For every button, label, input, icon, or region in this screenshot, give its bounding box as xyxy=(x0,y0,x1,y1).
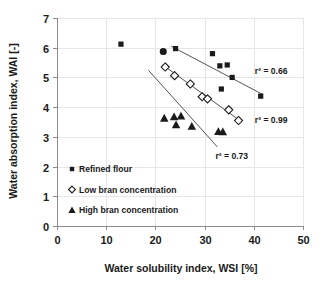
y-tick-label: 3 xyxy=(43,132,49,144)
x-tick-label: 10 xyxy=(100,234,112,246)
marker-filled-square xyxy=(225,62,230,67)
y-tick-label: 6 xyxy=(43,43,49,55)
y-tick-label: 5 xyxy=(43,72,49,84)
x-tick-label: 40 xyxy=(248,234,260,246)
y-axis-title: Water absorption index, WAI [-] xyxy=(7,43,19,198)
y-tick-label: 0 xyxy=(43,221,49,233)
legend-label: High bran concentration xyxy=(79,205,178,215)
r-squared-annotations: r² = 0.66r² = 0.99r² = 0.73 xyxy=(215,66,287,161)
y-tick-label: 4 xyxy=(43,102,50,114)
marker-filled-triangle xyxy=(172,120,181,128)
r-squared-label: r² = 0.99 xyxy=(255,115,288,125)
marker-filled-triangle xyxy=(177,112,186,120)
r-squared-label: r² = 0.66 xyxy=(255,66,288,76)
marker-filled-square xyxy=(210,51,215,56)
marker-open-diamond xyxy=(171,72,179,80)
marker-filled-square xyxy=(173,46,178,51)
marker-filled-square xyxy=(217,63,222,68)
marker-filled-circle xyxy=(160,48,167,55)
y-tick-label: 2 xyxy=(43,162,49,174)
chart-legend: Refined flourLow bran concentrationHigh … xyxy=(68,164,178,215)
marker-filled-triangle xyxy=(68,206,75,213)
marker-filled-square xyxy=(230,75,235,80)
trendline-refined-flour xyxy=(171,46,263,94)
marker-filled-triangle xyxy=(160,114,169,122)
x-axis-title: Water solubility index, WSI [%] xyxy=(104,262,257,274)
x-tick-label: 30 xyxy=(199,234,211,246)
y-tick-label: 7 xyxy=(43,13,49,25)
marker-open-diamond xyxy=(69,186,76,193)
marker-filled-square xyxy=(70,167,74,171)
x-tick-label: 20 xyxy=(149,234,161,246)
marker-open-diamond xyxy=(161,63,169,71)
marker-filled-square xyxy=(118,42,123,47)
r-squared-label: r² = 0.73 xyxy=(215,151,248,161)
chart-figure: 0123456701020304050 r² = 0.66r² = 0.99r²… xyxy=(0,0,322,284)
x-tick-label: 50 xyxy=(297,234,309,246)
legend-label: Refined flour xyxy=(79,164,133,174)
marker-open-diamond xyxy=(225,106,233,114)
marker-filled-triangle xyxy=(188,122,197,130)
data-points xyxy=(118,42,263,136)
legend-label: Low bran concentration xyxy=(79,185,176,195)
marker-filled-square xyxy=(219,86,224,91)
y-tick-label: 1 xyxy=(43,191,49,203)
marker-filled-square xyxy=(258,94,263,99)
trendline-high-bran-concentration xyxy=(149,70,218,147)
scatter-plot: 0123456701020304050 r² = 0.66r² = 0.99r²… xyxy=(0,0,322,284)
x-tick-label: 0 xyxy=(54,234,60,246)
